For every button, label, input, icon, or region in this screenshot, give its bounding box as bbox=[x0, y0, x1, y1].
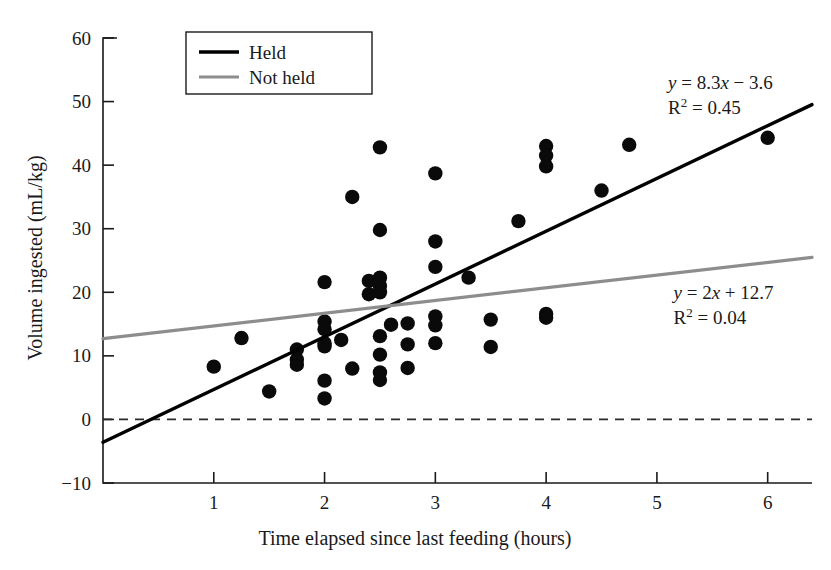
data-point bbox=[511, 214, 525, 228]
data-point bbox=[345, 361, 359, 375]
x-tick-label: 6 bbox=[763, 492, 773, 513]
equation-held: y = 8.3x − 3.6 bbox=[666, 72, 773, 93]
y-axis-ticks: −100102030405060 bbox=[61, 28, 114, 494]
data-point bbox=[290, 358, 304, 372]
data-point bbox=[207, 359, 221, 373]
y-axis-title: Volume ingested (mL/kg) bbox=[24, 155, 47, 360]
data-point bbox=[317, 339, 331, 353]
r-squared-value: = 0.45 bbox=[687, 97, 740, 118]
data-point bbox=[594, 183, 608, 197]
data-point bbox=[400, 316, 414, 330]
x-axis-title: Time elapsed since last feeding (hours) bbox=[258, 527, 571, 550]
r-squared-value: = 0.04 bbox=[693, 307, 747, 328]
data-point bbox=[334, 333, 348, 347]
data-point bbox=[760, 131, 774, 145]
data-point bbox=[428, 166, 442, 180]
x-tick-label: 4 bbox=[541, 492, 551, 513]
y-tick-label: 30 bbox=[72, 218, 91, 239]
equation-coefficient: = 2 bbox=[682, 282, 712, 303]
equation-intercept: − 3.6 bbox=[729, 72, 773, 93]
data-point bbox=[622, 138, 636, 152]
data-point bbox=[317, 373, 331, 387]
r-squared-symbol: R bbox=[668, 97, 681, 118]
scatter-chart-figure: −100102030405060 123456 y = 8.3x − 3.6R2… bbox=[0, 0, 831, 570]
data-point bbox=[262, 384, 276, 398]
equation-y-var: y bbox=[672, 282, 683, 303]
regression-line-held bbox=[103, 105, 812, 443]
data-point bbox=[428, 336, 442, 350]
data-point bbox=[317, 391, 331, 405]
data-point bbox=[373, 140, 387, 154]
x-tick-label: 3 bbox=[431, 492, 441, 513]
regression-lines bbox=[103, 105, 812, 443]
r-squared-symbol: R bbox=[674, 307, 687, 328]
data-points bbox=[207, 131, 775, 406]
data-point bbox=[373, 285, 387, 299]
y-tick-label: −10 bbox=[61, 473, 91, 494]
data-point bbox=[539, 159, 553, 173]
y-tick-label: 20 bbox=[72, 282, 91, 303]
equation-y-var: y bbox=[666, 72, 677, 93]
x-tick-label: 5 bbox=[652, 492, 662, 513]
data-point bbox=[317, 275, 331, 289]
data-point bbox=[428, 318, 442, 332]
y-tick-label: 40 bbox=[72, 155, 91, 176]
data-point bbox=[384, 318, 398, 332]
y-tick-label: 50 bbox=[72, 91, 91, 112]
y-tick-label: 10 bbox=[72, 345, 91, 366]
data-point bbox=[428, 234, 442, 248]
x-tick-label: 2 bbox=[320, 492, 330, 513]
data-point bbox=[373, 223, 387, 237]
data-point bbox=[539, 311, 553, 325]
equation-intercept: + 12.7 bbox=[720, 282, 773, 303]
data-point bbox=[461, 270, 475, 284]
data-point bbox=[373, 373, 387, 387]
y-tick-label: 60 bbox=[72, 28, 91, 49]
data-point bbox=[484, 312, 498, 326]
chart-svg: −100102030405060 123456 y = 8.3x − 3.6R2… bbox=[0, 0, 831, 570]
data-point bbox=[345, 190, 359, 204]
equation-not-held: y = 2x + 12.7 bbox=[672, 282, 774, 303]
data-point bbox=[234, 331, 248, 345]
legend-label-not-held: Not held bbox=[249, 67, 315, 88]
x-tick-label: 1 bbox=[209, 492, 219, 513]
data-point bbox=[400, 337, 414, 351]
x-axis-ticks: 123456 bbox=[209, 472, 772, 513]
data-point bbox=[428, 260, 442, 274]
data-point bbox=[484, 340, 498, 354]
r-squared-held: R2 = 0.45 bbox=[668, 94, 741, 118]
data-point bbox=[373, 347, 387, 361]
legend: Held Not held bbox=[186, 32, 372, 94]
equation-annotations: y = 8.3x − 3.6R2 = 0.45y = 2x + 12.7R2 =… bbox=[666, 72, 774, 328]
r-squared-not-held: R2 = 0.04 bbox=[674, 304, 747, 328]
data-point bbox=[400, 361, 414, 375]
legend-label-held: Held bbox=[249, 42, 286, 63]
equation-coefficient: = 8.3 bbox=[676, 72, 720, 93]
data-point bbox=[373, 329, 387, 343]
y-tick-label: 0 bbox=[82, 409, 92, 430]
